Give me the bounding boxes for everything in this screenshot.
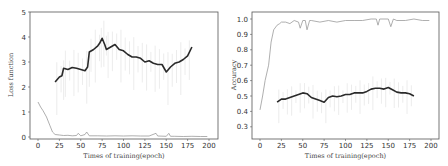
x-tick-label: 125	[138, 142, 151, 150]
x-tick-label: 50	[76, 142, 85, 150]
x-tick-label: 100	[339, 142, 352, 150]
plot-frame	[30, 12, 218, 139]
x-tick-label: 100	[117, 142, 130, 150]
x-axis-label: Times of training(epoch)	[83, 152, 165, 160]
x-tick-label: 125	[360, 142, 373, 150]
figure: 0255075100125150175200012345Times of tra…	[0, 0, 448, 166]
y-axis-label: Loss function	[7, 53, 15, 97]
y-tick-label: 5	[22, 9, 26, 17]
y-axis-label: Accuracy	[230, 59, 238, 91]
y-tick-label: 0.4	[237, 108, 249, 116]
y-tick-label: 0.8	[237, 46, 248, 54]
x-tick-label: 75	[98, 142, 107, 150]
y-tick-label: 0.7	[237, 62, 248, 70]
x-tick-label: 25	[55, 142, 64, 150]
x-tick-label: 175	[403, 142, 416, 150]
y-tick-label: 3	[22, 59, 26, 67]
x-tick-label: 150	[160, 142, 173, 150]
loss-chart: 0255075100125150175200012345Times of tra…	[7, 9, 218, 161]
y-tick-label: 0.9	[237, 31, 248, 39]
x-tick-label: 0	[36, 142, 40, 150]
raw-series-line	[260, 19, 429, 110]
x-tick-label: 175	[181, 142, 194, 150]
y-tick-label: 0.6	[237, 77, 249, 85]
y-tick-label: 4	[22, 34, 27, 42]
x-tick-label: 75	[320, 142, 329, 150]
x-axis-label: Times of training(epoch)	[305, 152, 387, 160]
raw-series-line	[38, 102, 207, 137]
y-tick-label: 1.0	[237, 16, 248, 24]
x-tick-label: 0	[258, 142, 262, 150]
smoothed-series-line	[277, 88, 414, 103]
y-tick-label: 0	[22, 134, 26, 142]
smoothed-series-line	[55, 38, 192, 82]
x-tick-label: 25	[277, 142, 286, 150]
plot-frame	[252, 12, 439, 139]
y-tick-label: 2	[22, 84, 26, 92]
raw-validation-noise	[279, 76, 412, 123]
x-tick-label: 50	[298, 142, 307, 150]
accuracy-chart: 02550751001251501752000.30.40.50.60.70.8…	[230, 12, 439, 160]
y-tick-label: 0.3	[237, 123, 248, 131]
x-tick-label: 200	[202, 142, 215, 150]
y-tick-label: 0.5	[237, 93, 248, 101]
x-tick-label: 200	[424, 142, 437, 150]
x-tick-label: 150	[382, 142, 395, 150]
y-tick-label: 1	[22, 109, 26, 117]
